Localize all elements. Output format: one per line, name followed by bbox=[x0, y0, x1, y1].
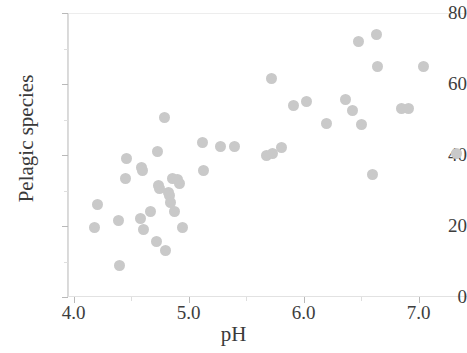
x-tick-label-7.0: 7.0 bbox=[389, 303, 449, 322]
data-point bbox=[356, 119, 367, 130]
y-minor-tick bbox=[64, 191, 68, 192]
x-minor-tick bbox=[246, 297, 247, 301]
data-point bbox=[372, 61, 383, 72]
y-tick-20 bbox=[62, 226, 68, 227]
y-tick-40 bbox=[62, 155, 68, 156]
y-tick-label-80: 80 bbox=[419, 3, 467, 22]
data-point bbox=[120, 173, 131, 184]
data-point bbox=[418, 61, 429, 72]
data-point bbox=[301, 96, 312, 107]
x-axis-title: pH bbox=[0, 322, 467, 347]
y-axis-title: Pelagic species bbox=[14, 29, 39, 249]
y-tick-label-60: 60 bbox=[419, 74, 467, 93]
data-point bbox=[174, 178, 185, 189]
y-minor-tick bbox=[64, 49, 68, 50]
x-minor-tick bbox=[361, 297, 362, 301]
y-tick-label-20: 20 bbox=[419, 216, 467, 235]
x-axis-line bbox=[68, 296, 467, 297]
y-tick-80 bbox=[62, 13, 68, 14]
data-point bbox=[321, 118, 332, 129]
scatter-plot-figure: 020406080 4.05.06.07.0 Pelagic species p… bbox=[0, 0, 467, 353]
x-minor-tick bbox=[131, 297, 132, 301]
data-point bbox=[288, 100, 299, 111]
data-point bbox=[451, 148, 462, 159]
y-tick-0 bbox=[62, 297, 68, 298]
data-point bbox=[229, 141, 240, 152]
x-tick-label-6.0: 6.0 bbox=[274, 303, 334, 322]
data-point bbox=[371, 29, 382, 40]
y-tick-60 bbox=[62, 84, 68, 85]
data-point bbox=[215, 141, 226, 152]
x-tick-label-4.0: 4.0 bbox=[44, 303, 104, 322]
y-minor-tick bbox=[64, 262, 68, 263]
x-tick-label-5.0: 5.0 bbox=[159, 303, 219, 322]
data-point bbox=[114, 260, 125, 271]
y-minor-tick bbox=[64, 120, 68, 121]
data-point bbox=[347, 105, 358, 116]
